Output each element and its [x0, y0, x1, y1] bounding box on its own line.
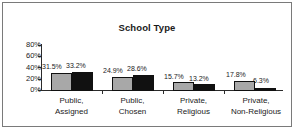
bar-pair-2	[163, 45, 224, 91]
bar-1-series2	[133, 75, 154, 91]
category-label-0-line2: Assigned	[41, 107, 102, 118]
chart-figure: School Type 80% 60% 40% 20% 0% 31.5% 33.…	[0, 0, 294, 129]
y-tick-label-0: 0%	[5, 86, 41, 94]
y-tick-20: 20%	[0, 75, 41, 83]
bar-0-series2	[72, 72, 93, 91]
category-label-3-line2: Non-Religious	[224, 107, 288, 118]
category-label-2: Private, Religious	[163, 96, 224, 117]
y-tick-0: 0%	[0, 86, 41, 94]
y-tick-80: 80%	[0, 41, 41, 49]
bar-group-0: 31.5% 33.2%	[41, 44, 102, 91]
y-tick-label-40: 40%	[5, 64, 41, 72]
bar-pair-0	[41, 45, 102, 91]
bar-group-2: 15.7% 13.2%	[163, 44, 224, 91]
category-label-1-line1: Public,	[102, 96, 163, 107]
category-label-3-line1: Private,	[224, 96, 288, 107]
category-label-0: Public, Assigned	[41, 96, 102, 117]
bar-3-series1	[234, 81, 255, 91]
category-label-1-line2: Chosen	[102, 107, 163, 118]
y-tick-label-60: 60%	[5, 52, 41, 60]
y-tick-label-20: 20%	[5, 75, 41, 83]
plot-area: 80% 60% 40% 20% 0% 31.5% 33.2%	[0, 0, 294, 129]
y-tick-label-80: 80%	[5, 41, 41, 49]
bar-2-series1	[173, 82, 194, 91]
y-tick-60: 60%	[0, 52, 41, 60]
bar-2-series2	[194, 84, 215, 92]
bar-1-series1	[112, 77, 133, 91]
category-label-0-line1: Public,	[41, 96, 102, 107]
category-label-2-line2: Religious	[163, 107, 224, 118]
y-tick-40: 40%	[0, 64, 41, 72]
bar-pair-1	[102, 45, 163, 91]
category-label-2-line1: Private,	[163, 96, 224, 107]
bar-group-3: 17.8% 6.3%	[224, 44, 285, 91]
category-label-3: Private, Non-Religious	[224, 96, 288, 117]
bar-3-series2	[255, 88, 276, 92]
bar-group-1: 24.9% 28.6%	[102, 44, 163, 91]
category-label-1: Public, Chosen	[102, 96, 163, 117]
bar-pair-3	[224, 45, 285, 91]
bar-0-series1	[51, 73, 72, 91]
